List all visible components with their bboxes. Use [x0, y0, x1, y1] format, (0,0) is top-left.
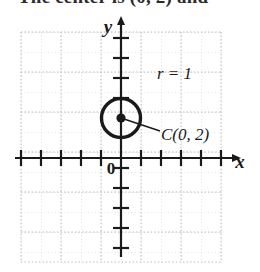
caption-clip: The center is (0, 2) and	[0, 0, 260, 13]
origin-label: 0	[107, 159, 116, 178]
center-point-annotation: C(0, 2)	[161, 125, 210, 144]
x-axis-label: x	[234, 151, 245, 172]
coordinate-plane-svg: y x 0 r = 1 C(0, 2)	[0, 13, 260, 272]
y-axis-label: y	[102, 16, 113, 37]
radius-annotation: r = 1	[157, 64, 192, 83]
caption-text: The center is (0, 2) and	[18, 0, 258, 8]
coordinate-plane-figure: y x 0 r = 1 C(0, 2)	[0, 13, 260, 272]
figure-page: The center is (0, 2) and	[0, 0, 260, 272]
y-axis-arrow	[117, 16, 125, 25]
